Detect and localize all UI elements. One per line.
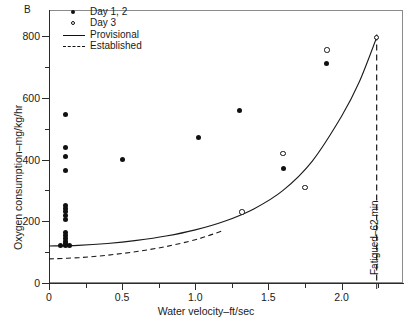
data-point-filled xyxy=(63,145,68,150)
legend-key-open-circle xyxy=(62,18,88,30)
solid-line-icon xyxy=(63,35,85,36)
figure-panel-b: B 0200400600800 00.51.01.52.0 Oxygen con… xyxy=(0,0,412,319)
data-point-filled xyxy=(63,154,68,159)
data-point-open xyxy=(302,185,307,190)
dashed-line-icon xyxy=(63,46,85,47)
legend-item-label: Day 1, 2 xyxy=(90,6,127,18)
legend-key-filled-circle xyxy=(62,6,88,18)
legend-key-dashed-line xyxy=(62,41,88,53)
data-point-open xyxy=(280,151,285,156)
open-circle-icon xyxy=(71,21,75,25)
data-point-open xyxy=(239,209,244,214)
data-point-filled xyxy=(120,157,125,162)
legend-item-label: Provisional xyxy=(90,29,139,41)
legend-item-label: Established xyxy=(90,40,142,52)
data-point-filled xyxy=(63,168,68,173)
data-point-filled xyxy=(281,166,286,171)
legend-key-solid-line xyxy=(62,29,88,41)
data-point-filled xyxy=(63,112,68,117)
data-point-open xyxy=(324,47,329,52)
curve-provisional xyxy=(49,38,377,246)
fatigue-annotation-label: Fatigued–62 min xyxy=(369,201,380,276)
data-point-filled xyxy=(237,108,242,113)
data-point-filled xyxy=(63,217,68,222)
filled-circle-icon xyxy=(71,10,75,14)
legend-item-label: Day 3 xyxy=(90,17,116,29)
